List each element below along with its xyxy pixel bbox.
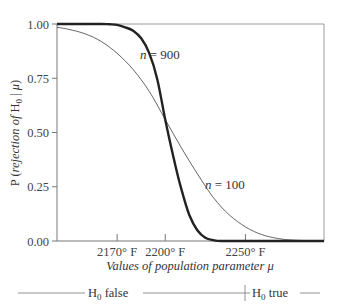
- y-tick-label: 0.75: [27, 72, 49, 86]
- y-tick-label: 1.00: [27, 18, 49, 32]
- x-axis-title: Values of population parameter μ: [106, 259, 273, 273]
- h0-false-label: H0 false: [88, 286, 129, 302]
- h0-true-label: H0 true: [252, 286, 289, 302]
- curve-label-n-100: n = 100: [205, 177, 245, 192]
- power-curve-chart: 0.000.250.500.751.00 2170° F2200° F2250°…: [0, 0, 343, 304]
- y-axis-ticks: 0.000.250.500.751.00: [27, 18, 57, 249]
- x-tick-label: 2170° F: [97, 245, 137, 259]
- power-curves: [57, 24, 324, 241]
- plot-frame: [57, 24, 324, 241]
- x-axis-ticks: 2170° F2200° F2250° F: [97, 234, 265, 259]
- hypothesis-bar: H0 false H0 true: [18, 285, 320, 302]
- y-axis-title: P (rejection of H0 | μ): [8, 80, 24, 186]
- y-tick-label: 0.00: [27, 235, 49, 249]
- y-tick-label: 0.50: [27, 126, 49, 140]
- curve-label-n-900: n = 900: [140, 47, 180, 62]
- x-tick-label: 2250° F: [225, 245, 265, 259]
- x-tick-label: 2200° F: [145, 245, 185, 259]
- curve-n-900: [57, 24, 324, 241]
- curve-n-100: [57, 27, 324, 241]
- y-tick-label: 0.25: [27, 180, 49, 194]
